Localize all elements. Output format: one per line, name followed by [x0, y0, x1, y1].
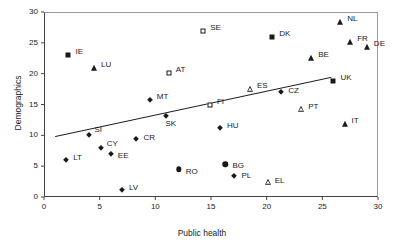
- filled-triangle-marker-icon: [337, 19, 343, 25]
- y-tick-label: 30: [18, 8, 38, 16]
- data-point-label: LU: [101, 61, 111, 69]
- data-point-label: FI: [217, 98, 224, 106]
- data-point-label: MT: [157, 93, 169, 101]
- scatter-chart: 051015202530051015202530 IELUSEDKNLFRDEB…: [0, 0, 404, 247]
- filled-triangle-marker-icon: [308, 55, 314, 61]
- filled-triangle-marker-icon: [364, 43, 370, 49]
- data-point-label: LV: [129, 184, 138, 192]
- x-tick-label: 20: [257, 203, 277, 211]
- y-tick-label: 0: [18, 193, 38, 201]
- x-tick-label: 25: [312, 203, 332, 211]
- hollow-triangle-marker-icon: [265, 179, 271, 185]
- x-axis-title: Public health: [0, 228, 404, 238]
- hollow-triangle-marker-icon: [298, 106, 304, 112]
- y-tick-label: 5: [18, 162, 38, 170]
- x-tick-label: 10: [145, 203, 165, 211]
- data-point-label: CZ: [288, 87, 299, 95]
- data-point-label: ES: [257, 82, 268, 90]
- data-point-label: FR: [357, 35, 368, 43]
- hollow-square-marker-icon: [201, 28, 206, 33]
- data-point-label: PT: [308, 103, 318, 111]
- data-point-label: UK: [340, 74, 351, 82]
- filled-square-marker-icon: [66, 53, 71, 58]
- data-point-label: DK: [279, 30, 290, 38]
- data-point-label: CY: [107, 140, 118, 148]
- x-tick-label: 15: [201, 203, 221, 211]
- data-point-label: DE: [374, 40, 385, 48]
- data-point-label: EL: [275, 177, 285, 185]
- hollow-triangle-marker-icon: [247, 86, 253, 92]
- filled-square-marker-icon: [331, 79, 336, 84]
- data-point-label: HU: [227, 122, 239, 130]
- data-point-label: SK: [165, 120, 176, 128]
- data-point-label: CR: [143, 134, 155, 142]
- data-point-label: LT: [73, 154, 82, 162]
- filled-triangle-marker-icon: [347, 38, 353, 44]
- y-axis-title: Demographics: [13, 43, 23, 163]
- filled-triangle-marker-icon: [342, 120, 348, 126]
- data-point-label: EE: [118, 152, 129, 160]
- data-point-label: AT: [176, 66, 186, 74]
- data-point-label: NL: [347, 15, 357, 23]
- filled-triangle-marker-icon: [91, 64, 97, 70]
- data-point-label: PL: [241, 172, 251, 180]
- data-point-label: SI: [95, 126, 103, 134]
- hollow-square-marker-icon: [207, 102, 212, 107]
- data-point-label: IT: [352, 117, 359, 125]
- data-point-label: SE: [210, 24, 221, 32]
- data-point-label: RO: [186, 168, 198, 176]
- data-point-label: BE: [318, 51, 329, 59]
- x-tick-label: 0: [34, 203, 54, 211]
- data-point-label: BG: [232, 162, 244, 170]
- x-tick-label: 30: [368, 203, 388, 211]
- data-point-label: IE: [75, 48, 83, 56]
- x-tick-label: 5: [90, 203, 110, 211]
- hollow-square-marker-icon: [166, 71, 171, 76]
- filled-square-marker-icon: [270, 34, 275, 39]
